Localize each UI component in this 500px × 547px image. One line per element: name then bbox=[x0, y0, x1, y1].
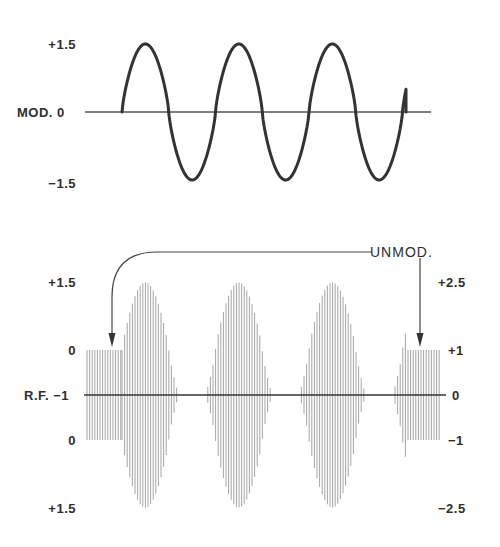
arrowhead-left bbox=[109, 333, 116, 347]
modulation-diagram bbox=[0, 0, 500, 547]
mod-tick-plus: +1.5 bbox=[40, 38, 76, 51]
mod-tick-minus: −1.5 bbox=[40, 177, 76, 190]
mod-axis-label: MOD. 0 bbox=[17, 106, 65, 119]
rf-right-tick-top: +2.5 bbox=[438, 276, 466, 289]
arrowhead-right bbox=[417, 333, 424, 347]
rf-left-tick-top: +1.5 bbox=[40, 276, 76, 289]
rf-right-tick-minus1: −1 bbox=[448, 434, 464, 447]
rf-right-tick-zero: 0 bbox=[452, 389, 460, 402]
unmod-annotation: UNMOD. bbox=[370, 245, 433, 259]
rf-axis-label: R.F. −1 bbox=[24, 389, 69, 402]
rf-right-tick-plus1: +1 bbox=[448, 344, 464, 357]
rf-left-tick-bottom: +1.5 bbox=[40, 502, 76, 515]
rf-left-tick-upper-zero: 0 bbox=[40, 344, 76, 357]
rf-right-tick-bottom: −2.5 bbox=[438, 502, 466, 515]
rf-left-tick-lower-zero: 0 bbox=[40, 434, 76, 447]
